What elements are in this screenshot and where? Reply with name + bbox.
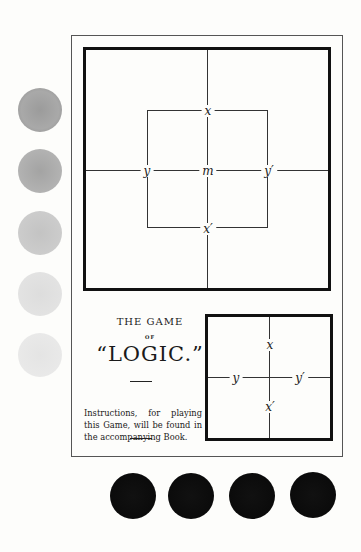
board-horizontal-line: [208, 377, 330, 378]
grey-counter[interactable]: [18, 272, 62, 316]
label-y: y: [230, 372, 243, 384]
label-x: x: [202, 105, 215, 117]
label-m: m: [199, 165, 216, 177]
divider: [130, 381, 152, 382]
grey-counter[interactable]: [18, 211, 62, 255]
black-counter[interactable]: [290, 472, 336, 518]
black-counter[interactable]: [168, 473, 214, 519]
title-line-2: OF: [100, 334, 200, 340]
small-board: x y y′ x′: [205, 314, 333, 441]
label-x: x: [264, 339, 277, 351]
big-board: x y m y′ x′: [83, 47, 331, 291]
label-y-prime: y′: [261, 165, 277, 177]
label-x-prime: x′: [200, 223, 216, 235]
title-line-1: THE GAME: [100, 316, 200, 327]
black-counter[interactable]: [110, 473, 156, 519]
label-x-prime: x′: [262, 401, 278, 413]
grey-counter[interactable]: [18, 333, 62, 377]
label-y: y: [141, 165, 154, 177]
game-title: “LOGIC.”: [85, 342, 215, 366]
label-y-prime: y′: [292, 372, 308, 384]
black-counter[interactable]: [229, 473, 275, 519]
grey-counter[interactable]: [18, 149, 62, 193]
grey-counter[interactable]: [18, 88, 62, 132]
divider: [130, 438, 152, 439]
